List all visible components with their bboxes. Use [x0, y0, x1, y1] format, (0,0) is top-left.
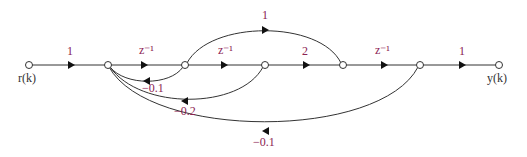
gain-label: 1	[67, 44, 73, 58]
arrow-right-icon	[221, 61, 228, 69]
gain-label: −0.2	[174, 104, 196, 118]
gain-label: z⁻¹	[218, 43, 233, 57]
gain-label: −0.1	[253, 135, 275, 149]
arrow-right-icon	[381, 61, 388, 69]
gain-label: −0.1	[142, 81, 164, 95]
arrow-right-icon	[68, 61, 75, 69]
node-4	[340, 62, 347, 69]
gain-label: 1	[262, 8, 268, 22]
arrow-right-icon	[303, 61, 310, 69]
node-3	[262, 62, 269, 69]
gain-label: 1	[459, 44, 465, 58]
output-signal-label: y(k)	[487, 71, 507, 85]
gain-label: z⁻¹	[139, 43, 154, 57]
node-2	[182, 62, 189, 69]
edge-n3-n1	[110, 67, 263, 99]
arrow-left-icon	[262, 127, 269, 135]
node-y	[496, 62, 503, 69]
node-1	[105, 62, 112, 69]
node-5	[417, 62, 424, 69]
arrow-right-icon	[459, 61, 466, 69]
edge-n2-n4	[187, 31, 341, 63]
signal-flow-graph: 1 z⁻¹ z⁻¹ 2 z⁻¹ 1 1 −0.1 −0.2 −0.1 r(k) …	[0, 0, 527, 157]
gain-label: 2	[302, 44, 308, 58]
arrow-right-icon	[262, 26, 269, 34]
node-r	[26, 62, 33, 69]
input-signal-label: r(k)	[18, 71, 36, 85]
arrow-right-icon	[141, 61, 148, 69]
gain-label: z⁻¹	[375, 43, 390, 57]
